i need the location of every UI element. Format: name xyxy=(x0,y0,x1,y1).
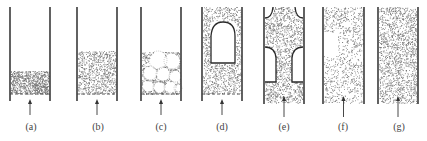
gas-flow-arrow-d xyxy=(220,99,224,115)
column-a xyxy=(10,7,50,115)
bubble xyxy=(142,80,154,92)
column-d xyxy=(202,7,242,115)
column-c xyxy=(141,7,182,115)
column-e xyxy=(264,7,304,117)
panel-a-label: (a) xyxy=(16,121,46,132)
gas-flow-arrow-c xyxy=(159,99,163,115)
bubble xyxy=(143,66,157,80)
diagram-canvas xyxy=(0,0,427,141)
particles-g xyxy=(379,7,418,104)
bubble xyxy=(156,67,170,81)
slug-bubble xyxy=(211,22,235,63)
wall-slug-right xyxy=(292,47,303,82)
panel-b-label: (b) xyxy=(83,121,113,132)
bubble xyxy=(153,81,165,93)
panel-f-label: (f) xyxy=(328,121,358,132)
particles-e xyxy=(265,7,304,104)
bubble xyxy=(169,70,181,82)
gas-flow-arrow-e xyxy=(282,96,286,117)
particles-b xyxy=(78,51,117,95)
particles-a xyxy=(11,71,50,95)
gas-flow-arrow-a xyxy=(28,99,32,115)
bubble xyxy=(164,53,180,69)
panel-d-label: (d) xyxy=(207,121,237,132)
wall-slug-left xyxy=(265,47,276,82)
column-b xyxy=(77,7,117,115)
wall-slug-top-right xyxy=(295,7,303,18)
panel-e-label: (e) xyxy=(269,121,299,132)
gas-flow-arrow-b xyxy=(95,99,99,115)
gas-flow-arrow-f xyxy=(342,96,346,117)
particles-f xyxy=(324,7,364,104)
particles-c xyxy=(142,51,182,95)
wall-slug-top-left xyxy=(265,7,273,18)
column-g xyxy=(378,7,418,117)
particles-d xyxy=(203,7,242,95)
column-f xyxy=(323,7,364,117)
fluidization-diagram: (a) (b) (c) (d) (e) (f) (g) xyxy=(0,0,427,141)
panel-c-label: (c) xyxy=(146,121,176,132)
panel-g-label: (g) xyxy=(384,121,414,132)
